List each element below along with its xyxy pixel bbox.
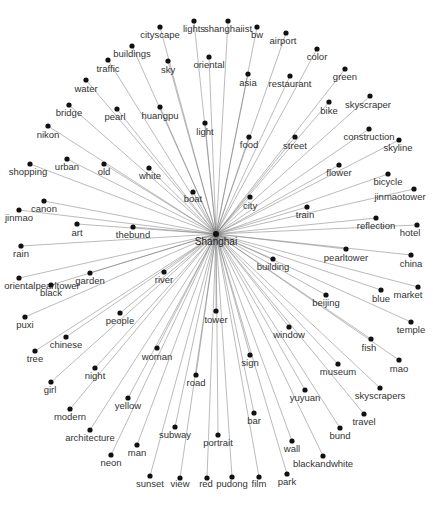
graph-node[interactable]: girl <box>44 379 57 395</box>
node-dot-woman[interactable] <box>154 345 159 350</box>
graph-node[interactable]: people <box>106 310 135 326</box>
graph-node[interactable]: sunset <box>136 473 164 489</box>
node-dot-art[interactable] <box>74 221 79 226</box>
graph-node[interactable]: fish <box>362 336 377 353</box>
graph-node[interactable]: hotel <box>400 222 421 238</box>
graph-node[interactable]: puxi <box>16 314 33 330</box>
graph-node[interactable]: white <box>138 165 161 181</box>
graph-node[interactable]: oriental <box>193 54 224 70</box>
node-dot-mao[interactable] <box>396 357 401 362</box>
graph-node[interactable]: pudong <box>216 474 248 489</box>
graph-node[interactable]: market <box>393 284 422 300</box>
graph-node[interactable]: train <box>296 204 314 220</box>
graph-node[interactable]: jinmao <box>4 207 33 223</box>
graph-node[interactable]: boat <box>184 189 203 204</box>
graph-node[interactable]: thebund <box>116 224 150 240</box>
graph-node[interactable]: bicycle <box>373 171 402 187</box>
graph-node[interactable]: travel <box>352 411 375 427</box>
graph-node[interactable]: china <box>400 252 423 269</box>
graph-node[interactable]: blackandwhite <box>293 453 353 469</box>
graph-node[interactable]: pearltower <box>324 246 368 263</box>
graph-node[interactable]: chinese <box>50 334 83 350</box>
node-dot-tower[interactable] <box>213 308 218 313</box>
graph-node[interactable]: park <box>278 471 297 487</box>
graph-node[interactable]: neon <box>100 452 121 468</box>
graph-node[interactable]: cityscape <box>140 24 180 40</box>
graph-node[interactable]: woman <box>141 345 173 362</box>
graph-node[interactable]: street <box>283 134 307 151</box>
graph-node[interactable]: green <box>333 66 357 82</box>
graph-node[interactable]: construction <box>343 126 394 142</box>
node-dot-pearltower[interactable] <box>343 246 348 251</box>
graph-node[interactable]: huangpu <box>142 104 179 121</box>
node-dot-city[interactable] <box>247 194 252 199</box>
node-dot-light[interactable] <box>202 120 207 125</box>
graph-node[interactable]: nikon <box>37 123 60 140</box>
graph-node[interactable]: bund <box>329 425 350 441</box>
graph-node[interactable]: beijing <box>312 292 339 308</box>
graph-node[interactable]: sign <box>241 352 258 368</box>
graph-node[interactable]: lights <box>183 18 205 34</box>
graph-node[interactable]: traffic <box>96 57 119 74</box>
node-dot-nikon[interactable] <box>45 123 50 128</box>
graph-node[interactable]: modern <box>54 406 86 422</box>
graph-node[interactable]: film <box>252 474 267 489</box>
graph-node[interactable]: night <box>85 365 106 381</box>
node-dot-blue[interactable] <box>378 287 383 292</box>
graph-node[interactable]: window <box>272 324 305 340</box>
node-dot-asia[interactable] <box>245 71 250 76</box>
graph-node[interactable]: flower <box>326 162 351 178</box>
graph-node[interactable]: view <box>170 475 189 489</box>
node-dot-huangpu[interactable] <box>157 104 162 109</box>
node-dot-bike[interactable] <box>326 99 331 104</box>
graph-node[interactable]: old <box>98 161 111 177</box>
graph-node[interactable]: garden <box>75 270 105 286</box>
graph-node[interactable]: shanghaiist <box>204 18 252 34</box>
graph-node[interactable]: asia <box>239 71 257 88</box>
graph-node[interactable]: mao <box>390 357 408 374</box>
graph-node[interactable]: water <box>73 77 97 94</box>
graph-node[interactable]: bridge <box>56 102 82 118</box>
node-dot-skyscraper[interactable] <box>367 93 372 98</box>
graph-node[interactable]: restaurant <box>269 73 312 89</box>
node-dot-sky[interactable] <box>165 58 170 63</box>
node-label: girl <box>44 384 57 395</box>
node-dot-traffic[interactable] <box>105 57 110 62</box>
graph-node[interactable]: shopping <box>9 161 48 177</box>
graph-node[interactable]: wall <box>283 438 300 454</box>
graph-node[interactable]: bike <box>320 99 337 116</box>
graph-node[interactable]: man <box>128 442 146 458</box>
graph-node[interactable]: yellow <box>115 395 142 411</box>
graph-node[interactable]: building <box>257 256 290 272</box>
graph-node[interactable]: color <box>307 46 328 62</box>
graph-node[interactable]: road <box>186 372 205 388</box>
graph-node[interactable]: skyscraper <box>345 93 391 110</box>
graph-node[interactable]: food <box>240 134 259 150</box>
graph-node[interactable]: art <box>71 221 82 238</box>
graph-node[interactable]: tree <box>27 348 43 364</box>
node-dot-water[interactable] <box>83 77 88 82</box>
node-dot-china[interactable] <box>408 252 413 257</box>
graph-node[interactable]: red <box>199 475 213 489</box>
node-label: bund <box>329 430 350 441</box>
graph-node[interactable]: bw <box>251 24 263 40</box>
graph-node[interactable]: buildings <box>113 43 151 59</box>
graph-node[interactable]: canon <box>31 198 57 214</box>
graph-node[interactable]: temple <box>397 319 426 335</box>
node-dot-fish[interactable] <box>368 336 373 341</box>
graph-node[interactable]: subway <box>159 424 191 440</box>
graph-node[interactable]: architecture <box>65 427 115 443</box>
graph-node[interactable]: sky <box>161 58 176 75</box>
node-dot-street[interactable] <box>292 134 297 139</box>
graph-node[interactable]: bar <box>247 410 261 426</box>
graph-node[interactable]: urban <box>55 156 79 172</box>
graph-node[interactable]: jinmaotower <box>373 186 425 202</box>
graph-node[interactable]: portrait <box>203 432 233 448</box>
graph-node[interactable]: blue <box>372 287 390 304</box>
graph-node[interactable]: museum <box>320 361 357 377</box>
graph-node[interactable]: tower <box>204 308 227 325</box>
graph-node[interactable]: skyscrapers <box>355 385 406 401</box>
graph-node[interactable]: pearl <box>104 106 125 122</box>
graph-node[interactable]: reflection <box>357 215 396 231</box>
graph-node[interactable]: airport <box>270 30 297 46</box>
